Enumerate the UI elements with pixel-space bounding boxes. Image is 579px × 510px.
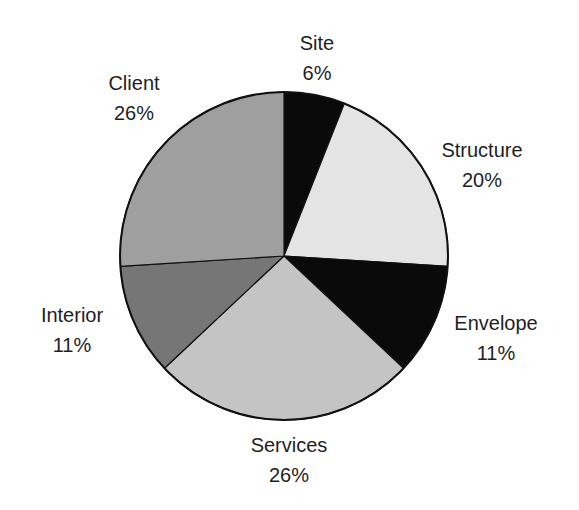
label-site-percent: 6% (300, 58, 334, 88)
pie-slices (120, 92, 448, 420)
label-structure-percent: 20% (441, 165, 522, 195)
label-client: Client 26% (108, 68, 159, 128)
label-services: Services 26% (251, 430, 328, 490)
label-site: Site 6% (300, 28, 334, 88)
label-interior: Interior 11% (41, 300, 103, 360)
label-interior-name: Interior (41, 300, 103, 330)
label-envelope-name: Envelope (454, 308, 537, 338)
label-client-name: Client (108, 68, 159, 98)
label-site-name: Site (300, 28, 334, 58)
label-structure-name: Structure (441, 135, 522, 165)
label-client-percent: 26% (108, 98, 159, 128)
label-envelope-percent: 11% (454, 338, 537, 368)
label-interior-percent: 11% (41, 330, 103, 360)
label-services-name: Services (251, 430, 328, 460)
label-envelope: Envelope 11% (454, 308, 537, 368)
label-services-percent: 26% (251, 460, 328, 490)
label-structure: Structure 20% (441, 135, 522, 195)
